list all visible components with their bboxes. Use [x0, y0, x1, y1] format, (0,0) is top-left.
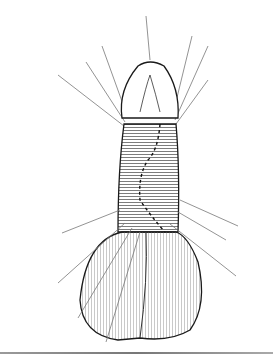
- shaft: [118, 124, 179, 232]
- scrotum: [80, 232, 202, 340]
- glans-outline: [121, 62, 178, 118]
- bottom-rule: [0, 352, 273, 354]
- medical-illustration: [0, 0, 273, 359]
